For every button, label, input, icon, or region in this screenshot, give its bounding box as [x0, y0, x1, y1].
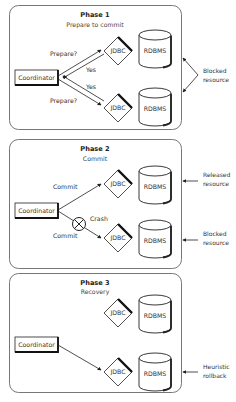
svg-text:JDBC: JDBC	[109, 104, 125, 112]
blocked-resource-label-2: resource	[203, 239, 229, 246]
jdbc-driver-bottom: JDBC	[104, 94, 132, 122]
database-bottom: RDBMS	[139, 220, 171, 258]
jdbc-driver-top: JDBC	[104, 170, 132, 198]
phase-1-subtitle: Prepare to commit	[66, 21, 124, 29]
released-resource-label-1: Released	[203, 171, 230, 178]
svg-text:JDBC: JDBC	[109, 368, 125, 376]
phase-3-title: Phase 3	[80, 279, 110, 287]
crash-icon	[73, 218, 86, 231]
blocked-arrow-bottom	[183, 75, 198, 92]
database-top: RDBMS	[139, 30, 171, 68]
commit-label-bottom: Commit	[53, 232, 78, 239]
jdbc-driver-top: JDBC	[104, 299, 132, 327]
recovery-arrow	[58, 345, 101, 370]
phase-1-panel: Phase 1 Prepare to commit Coordinator Pr…	[10, 6, 230, 130]
released-resource-label-2: resource	[203, 180, 229, 187]
coordinator-box: Coordinator	[15, 70, 58, 85]
blocked-arrow-top	[183, 58, 198, 75]
heuristic-rollback-label-1: Heuristic	[203, 363, 230, 370]
database-top: RDBMS	[139, 166, 171, 204]
svg-text:JDBC: JDBC	[109, 47, 125, 55]
database-bottom: RDBMS	[139, 88, 171, 126]
phase-2-title: Phase 2	[80, 145, 110, 153]
coordinator-box: Coordinator	[15, 337, 58, 352]
jdbc-driver-top: JDBC	[104, 37, 132, 65]
blocked-resource-label-1: Blocked	[203, 67, 227, 74]
prepare-label-top: Prepare?	[50, 50, 77, 58]
heuristic-rollback-label-2: rollback	[203, 372, 227, 379]
yes-label-top: Yes	[85, 66, 96, 73]
jdbc-driver-bottom: JDBC	[104, 358, 132, 386]
coordinator-label: Coordinator	[18, 207, 55, 214]
svg-text:RDBMS: RDBMS	[144, 183, 167, 190]
svg-text:RDBMS: RDBMS	[144, 47, 167, 54]
svg-text:JDBC: JDBC	[109, 180, 125, 188]
phase-2-subtitle: Commit	[83, 155, 108, 162]
coordinator-label: Coordinator	[18, 341, 55, 348]
coordinator-label: Coordinator	[18, 74, 55, 81]
svg-text:RDBMS: RDBMS	[144, 370, 167, 377]
yes-arrow-top	[63, 54, 104, 78]
database-bottom: RDBMS	[139, 353, 171, 391]
database-top: RDBMS	[139, 295, 171, 333]
commit-label-top: Commit	[53, 183, 78, 190]
svg-text:RDBMS: RDBMS	[144, 237, 167, 244]
blocked-resource-label-2: resource	[203, 76, 229, 83]
svg-text:RDBMS: RDBMS	[144, 105, 167, 112]
svg-text:JDBC: JDBC	[109, 234, 125, 242]
phase-3-subtitle: Recovery	[81, 288, 110, 296]
svg-text:JDBC: JDBC	[109, 309, 125, 317]
crash-label: Crash	[90, 215, 108, 222]
svg-text:RDBMS: RDBMS	[144, 312, 167, 319]
two-phase-commit-diagram: Phase 1 Prepare to commit Coordinator Pr…	[0, 0, 236, 402]
coordinator-box: Coordinator	[15, 203, 58, 218]
jdbc-driver-bottom: JDBC	[104, 224, 132, 252]
phase-2-panel: Phase 2 Commit Coordinator Crash Commit …	[10, 140, 231, 269]
prepare-label-bottom: Prepare?	[50, 97, 77, 105]
phase-1-title: Phase 1	[80, 11, 110, 19]
blocked-resource-label-1: Blocked	[203, 230, 227, 237]
yes-label-bottom: Yes	[85, 83, 96, 90]
phase-3-panel: Phase 3 Recovery Coordinator JDBC JDBC R…	[10, 274, 230, 393]
